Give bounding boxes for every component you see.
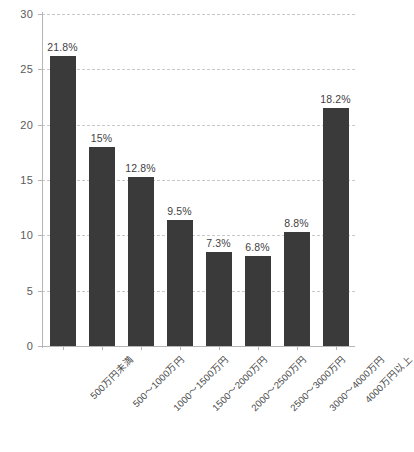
y-axis-tick-label: 5 [27, 285, 38, 297]
x-axis-category-label: 500万円未満 [86, 352, 136, 402]
x-axis-line [42, 346, 355, 347]
bar-value-label: 6.8% [245, 241, 269, 253]
bar[interactable] [284, 232, 310, 346]
bar-value-label: 15% [91, 132, 112, 144]
bar[interactable] [128, 177, 154, 346]
y-axis-tick-label: 0 [27, 340, 38, 352]
gridline-25 [42, 69, 355, 70]
bar-value-label: 7.3% [206, 237, 230, 249]
x-tick-mark [141, 346, 142, 350]
bar[interactable] [89, 147, 115, 346]
bar[interactable] [323, 108, 349, 346]
x-tick-mark [102, 346, 103, 350]
gridline-20 [42, 125, 355, 126]
y-axis-tick-label: 10 [20, 229, 38, 241]
y-tick-mark-15 [38, 180, 43, 181]
bar-value-label: 8.8% [284, 217, 308, 229]
bar-value-label: 18.2% [320, 93, 350, 105]
y-tick-mark-30 [38, 14, 43, 15]
y-tick-mark-0 [38, 346, 43, 347]
y-tick-mark-5 [38, 291, 43, 292]
y-axis-tick-label: 25 [20, 63, 38, 75]
bar[interactable] [50, 56, 76, 346]
y-tick-mark-20 [38, 125, 43, 126]
x-tick-mark [180, 346, 181, 350]
y-axis-tick-label: 20 [20, 119, 38, 131]
bar-value-label: 12.8% [125, 162, 155, 174]
y-axis-tick-label: 30 [20, 8, 38, 20]
bar[interactable] [206, 252, 232, 346]
x-tick-mark [219, 346, 220, 350]
y-tick-mark-25 [38, 69, 43, 70]
x-tick-mark [63, 346, 64, 350]
bar-value-label: 9.5% [167, 205, 191, 217]
x-tick-mark [336, 346, 337, 350]
y-axis-tick-label: 15 [20, 174, 38, 186]
bar-value-label: 21.8% [47, 41, 77, 53]
bar[interactable] [245, 256, 271, 346]
x-tick-mark [297, 346, 298, 350]
bar[interactable] [167, 220, 193, 346]
x-tick-mark [258, 346, 259, 350]
y-tick-mark-10 [38, 235, 43, 236]
gridline-30 [42, 14, 355, 15]
